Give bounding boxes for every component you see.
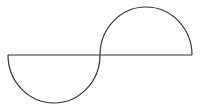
upper-semicircle [100,7,192,55]
s-curve-diagram [0,0,200,106]
lower-semicircle [8,55,100,103]
diagram-canvas: | [0,0,200,106]
